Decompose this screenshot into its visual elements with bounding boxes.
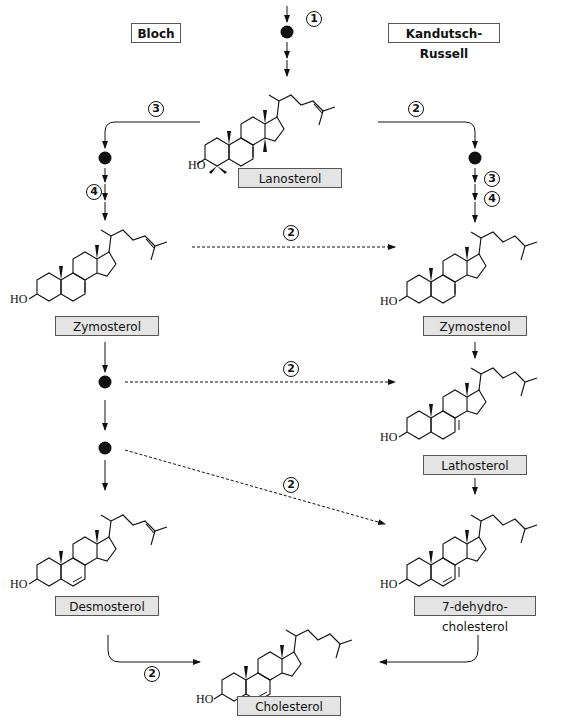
hydroxyl-label: HO — [188, 158, 205, 173]
molecule-label-desmosterol: Desmosterol — [55, 596, 159, 616]
hydroxyl-label: HO — [196, 692, 213, 707]
intermediate-dot — [281, 26, 294, 39]
molecule-label-zymosterol: Zymosterol — [55, 316, 159, 336]
molecule-label-lanosterol: Lanosterol — [238, 168, 342, 188]
molecule-label-zymostenol: Zymostenol — [423, 316, 527, 336]
cholesterol-biosynthesis-diagram: Bloch Kandutsch-Russell 1 3 2 4 3 4 2 2 … — [0, 0, 572, 720]
step-badge-2: 2 — [144, 666, 160, 682]
molecule-label-lathosterol: Lathosterol — [423, 455, 527, 475]
step-badge-3: 3 — [484, 171, 500, 187]
step-badge-1: 1 — [306, 11, 322, 27]
hydroxyl-label: HO — [10, 292, 27, 307]
molecule-label-7-dehydrocholesterol: 7-dehydro-cholesterol — [414, 596, 536, 616]
step-badge-4: 4 — [86, 184, 102, 200]
hydroxyl-label: HO — [380, 430, 397, 445]
step-badge-4: 4 — [484, 191, 500, 207]
hydroxyl-label: HO — [10, 577, 27, 592]
step-badge-2: 2 — [408, 101, 424, 117]
pathway-title-kandutsch-russell: Kandutsch-Russell — [388, 23, 500, 43]
step-badge-2: 2 — [283, 225, 299, 241]
step-badge-2: 2 — [283, 361, 299, 377]
step-badge-2: 2 — [283, 477, 299, 493]
hydroxyl-label: HO — [380, 294, 397, 309]
pathway-title-bloch: Bloch — [131, 23, 181, 43]
step-badge-3: 3 — [148, 101, 164, 117]
molecule-label-cholesterol: Cholesterol — [237, 696, 341, 716]
hydroxyl-label: HO — [380, 577, 397, 592]
